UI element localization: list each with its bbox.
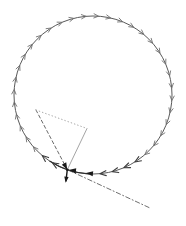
figure-container [0, 0, 186, 226]
equilibrium-point [66, 168, 69, 171]
phase-circle-diagram [0, 0, 186, 226]
figure-background [0, 0, 186, 226]
